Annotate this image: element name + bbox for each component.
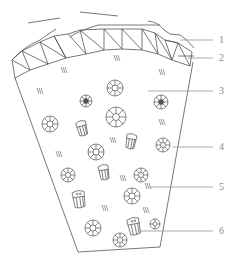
shell-grains bbox=[72, 119, 142, 236]
truss-bottom-chord bbox=[15, 49, 190, 78]
surface-dash-top bbox=[80, 12, 118, 16]
cross-section-diagram bbox=[0, 0, 236, 265]
shell-grain-icon bbox=[72, 190, 86, 209]
round-grain-icon bbox=[156, 138, 170, 152]
label-1: 1 bbox=[219, 35, 224, 45]
hatch-mark-icon bbox=[145, 183, 151, 189]
truss-layer bbox=[12, 29, 194, 78]
round-grain-icon bbox=[134, 168, 148, 182]
truss-diagonals bbox=[12, 29, 194, 78]
shell-grain-icon bbox=[126, 216, 141, 236]
hatch-mark-icon bbox=[61, 67, 67, 73]
label-2: 2 bbox=[219, 53, 224, 63]
hatch-mark-icon bbox=[56, 151, 62, 157]
surface-dash-left bbox=[28, 18, 60, 23]
truss-top-chord bbox=[12, 29, 192, 60]
hatch-mark-icon bbox=[159, 119, 165, 125]
outer-wall bbox=[12, 12, 194, 252]
round-grain-icon bbox=[42, 116, 58, 132]
round-grain-icon bbox=[107, 80, 123, 96]
hatch-mark-icon bbox=[120, 175, 126, 181]
label-4: 4 bbox=[219, 142, 224, 152]
hatch-mark-icon bbox=[114, 55, 120, 61]
hatch-mark-icon bbox=[102, 205, 108, 211]
shell-grain-icon bbox=[125, 133, 138, 150]
round-grain-icon bbox=[124, 188, 140, 204]
round-grain-icon bbox=[113, 233, 127, 247]
round-grain-icon bbox=[85, 220, 101, 236]
hatch-mark-icon bbox=[110, 137, 116, 143]
shell-grain-icon bbox=[75, 119, 89, 137]
round-grains bbox=[42, 80, 170, 247]
round-grain-icon bbox=[150, 219, 160, 229]
shell-grain-icon bbox=[98, 164, 111, 181]
round-grain-icon bbox=[106, 107, 126, 127]
hatch-mark-icon bbox=[143, 207, 149, 213]
label-3: 3 bbox=[219, 86, 224, 96]
label-6: 6 bbox=[219, 226, 224, 236]
round-grain-icon bbox=[80, 95, 92, 107]
hatch-mark-icon bbox=[37, 88, 43, 94]
round-grain-icon bbox=[61, 168, 75, 182]
round-grain-icon bbox=[154, 95, 168, 109]
leader-lines bbox=[140, 40, 213, 231]
round-grain-icon bbox=[88, 144, 104, 160]
label-5: 5 bbox=[219, 182, 224, 192]
hatch-mark-icon bbox=[159, 69, 165, 75]
hatch-marks bbox=[37, 55, 165, 213]
